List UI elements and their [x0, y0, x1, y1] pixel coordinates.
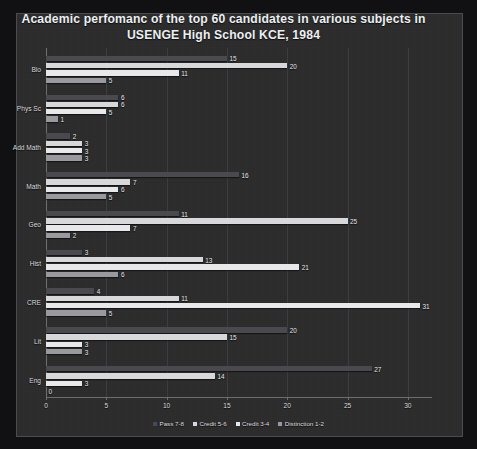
- bar[interactable]: [46, 310, 106, 315]
- bar-row: 31: [46, 303, 432, 308]
- bar-row: 0: [46, 388, 432, 393]
- x-tick-mark: [227, 397, 228, 400]
- bar-row: 11: [46, 296, 432, 301]
- legend-item[interactable]: Pass 7-8: [153, 420, 184, 427]
- bar[interactable]: [46, 179, 130, 184]
- bar[interactable]: [46, 56, 227, 61]
- bar-value-label: 13: [205, 256, 212, 263]
- x-tick-mark: [287, 397, 288, 400]
- chart-legend: Pass 7-8Credit 5-6Credit 3-4Distinction …: [0, 420, 477, 427]
- category-group: Add Math2333: [46, 126, 432, 165]
- bar-row: 13: [46, 257, 432, 262]
- bar[interactable]: [46, 257, 203, 262]
- bar[interactable]: [46, 141, 82, 146]
- bar-row: 3: [46, 141, 432, 146]
- plot-area: Bio1520115Phys Sc6651Add Math2333Math167…: [46, 48, 432, 397]
- bar[interactable]: [46, 233, 70, 238]
- bar-value-label: 1: [61, 116, 65, 123]
- y-tick-label: Hist: [30, 260, 41, 267]
- x-tick-label: 25: [344, 402, 351, 409]
- bar[interactable]: [46, 250, 82, 255]
- y-tick-label: Lit: [34, 337, 41, 344]
- bar-row: 7: [46, 179, 432, 184]
- bar-value-label: 3: [85, 154, 89, 161]
- bar-row: 15: [46, 56, 432, 61]
- legend-swatch: [193, 422, 197, 426]
- bar-row: 1: [46, 116, 432, 121]
- bar[interactable]: [46, 109, 106, 114]
- bar[interactable]: [46, 116, 58, 121]
- legend-label: Credit 5-6: [199, 420, 226, 427]
- bar-value-label: 21: [302, 263, 309, 270]
- bar-value-label: 11: [181, 70, 188, 77]
- x-tick-mark: [348, 397, 349, 400]
- bar-row: 3: [46, 342, 432, 347]
- bar[interactable]: [46, 381, 82, 386]
- x-tick-label: 20: [284, 402, 291, 409]
- bar-value-label: 31: [422, 302, 429, 309]
- x-tick-mark: [106, 397, 107, 400]
- bar[interactable]: [46, 264, 299, 269]
- bar[interactable]: [46, 95, 118, 100]
- x-tick-label: 5: [104, 402, 108, 409]
- bar[interactable]: [46, 327, 287, 332]
- bar[interactable]: [46, 172, 239, 177]
- legend-item[interactable]: Credit 5-6: [193, 420, 227, 427]
- bar-row: 27: [46, 366, 432, 371]
- legend-label: Pass 7-8: [160, 420, 184, 427]
- bar-value-label: 3: [85, 380, 89, 387]
- bar-value-label: 2: [73, 132, 77, 139]
- bar[interactable]: [46, 366, 372, 371]
- bar[interactable]: [46, 70, 179, 75]
- chart-title-line-2: USENGE High School KCE, 1984: [20, 27, 427, 43]
- bar[interactable]: [46, 303, 420, 308]
- bar[interactable]: [46, 102, 118, 107]
- bar-row: 11: [46, 211, 432, 216]
- bar-value-label: 6: [121, 101, 125, 108]
- bar[interactable]: [46, 211, 179, 216]
- bar-row: 2: [46, 233, 432, 238]
- bar-value-label: 15: [229, 334, 236, 341]
- bar-value-label: 27: [374, 365, 381, 372]
- category-group: Eng271430: [46, 358, 432, 397]
- bar-value-label: 16: [242, 171, 249, 178]
- y-tick-label: Phys Sc: [17, 105, 41, 112]
- bar-row: 3: [46, 349, 432, 354]
- legend-item[interactable]: Distinction 1-2: [278, 420, 324, 427]
- bar[interactable]: [46, 225, 130, 230]
- bar-value-label: 20: [290, 62, 297, 69]
- bar[interactable]: [46, 296, 179, 301]
- bar-value-label: 11: [181, 295, 188, 302]
- bar-value-label: 6: [121, 94, 125, 101]
- bar-value-label: 5: [109, 77, 113, 84]
- y-tick-label: Eng: [29, 376, 41, 383]
- bar-row: 3: [46, 250, 432, 255]
- bar[interactable]: [46, 342, 82, 347]
- bar-row: 3: [46, 155, 432, 160]
- y-tick-label: CRE: [27, 299, 41, 306]
- bar[interactable]: [46, 373, 215, 378]
- bar[interactable]: [46, 63, 287, 68]
- category-group: Hist313216: [46, 242, 432, 281]
- bar[interactable]: [46, 148, 82, 153]
- bar[interactable]: [46, 187, 118, 192]
- bar-value-label: 0: [49, 387, 53, 394]
- bar[interactable]: [46, 133, 70, 138]
- bar[interactable]: [46, 272, 118, 277]
- bar-row: 5: [46, 194, 432, 199]
- bar-row: 5: [46, 310, 432, 315]
- bar-row: 7: [46, 225, 432, 230]
- bar[interactable]: [46, 194, 106, 199]
- y-tick-label: Add Math: [13, 143, 41, 150]
- category-group: Lit201533: [46, 319, 432, 358]
- bar[interactable]: [46, 78, 106, 83]
- bar-value-label: 6: [121, 186, 125, 193]
- bar[interactable]: [46, 218, 348, 223]
- bar[interactable]: [46, 334, 227, 339]
- bar[interactable]: [46, 288, 94, 293]
- bar[interactable]: [46, 349, 82, 354]
- bar-row: 20: [46, 327, 432, 332]
- legend-item[interactable]: Credit 3-4: [236, 420, 270, 427]
- category-group: Bio1520115: [46, 48, 432, 87]
- bar[interactable]: [46, 155, 82, 160]
